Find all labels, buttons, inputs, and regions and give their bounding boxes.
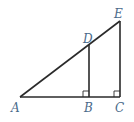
segment-ae [20, 21, 120, 97]
geometry-diagram: A B C D E [0, 0, 134, 122]
label-b: B [83, 101, 93, 115]
right-angle-marker-c [114, 91, 120, 97]
label-a: A [10, 101, 20, 115]
right-angle-marker-b [83, 91, 89, 97]
label-c: C [115, 101, 124, 115]
label-e: E [113, 7, 123, 21]
label-d: D [82, 32, 93, 46]
